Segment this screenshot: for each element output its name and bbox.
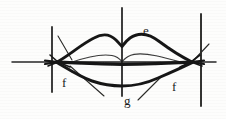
leader-line-g [138,76,162,100]
lips-line-art [0,0,226,119]
leader-line-f-left-lower [70,66,104,96]
upper-lip-outer-contour [57,34,192,62]
label-f-left: f [62,76,66,89]
label-e: e [143,24,149,37]
lips-diagram: e f f g [0,0,226,119]
label-g: g [124,94,131,107]
label-f-right: f [172,80,176,93]
